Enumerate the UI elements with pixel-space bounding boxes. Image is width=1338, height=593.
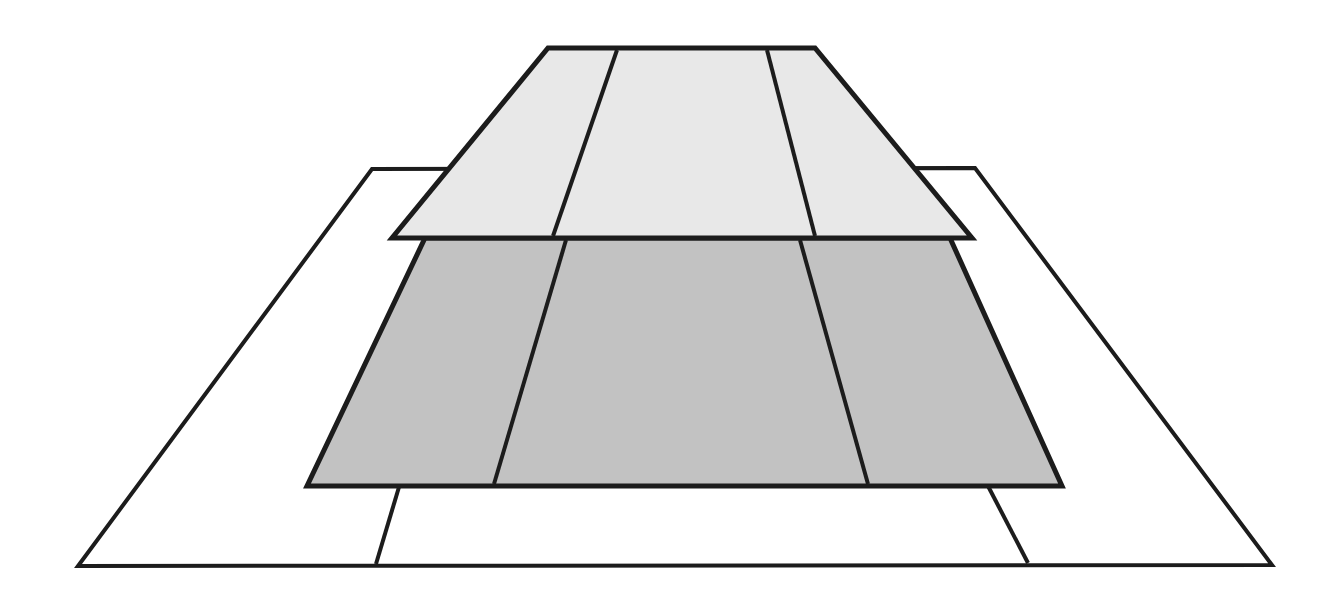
middle-trapezoid-group[interactable]	[307, 238, 1062, 486]
trapezoid-diagram-svg	[0, 0, 1338, 593]
middle-trapezoid[interactable]	[307, 238, 1062, 486]
diagram-canvas	[0, 0, 1338, 593]
